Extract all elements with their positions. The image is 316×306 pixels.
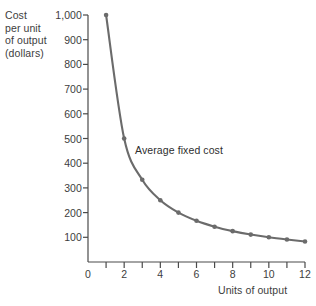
y-tick-label: 700 [46, 83, 82, 95]
data-point-markers [104, 13, 308, 244]
x-tick-label: 4 [147, 268, 173, 280]
y-tick-label: 500 [46, 133, 82, 145]
x-tick-label: 0 [75, 268, 101, 280]
x-tick-label: 2 [111, 268, 137, 280]
x-tick-label: 12 [292, 268, 316, 280]
y-axis-ticks [83, 15, 88, 237]
y-tick-label: 100 [46, 231, 82, 243]
y-tick-label: 800 [46, 58, 82, 70]
y-tick-label: 900 [46, 34, 82, 46]
x-tick-label: 10 [256, 268, 282, 280]
y-tick-label: 300 [46, 182, 82, 194]
y-tick-label: 200 [46, 207, 82, 219]
axis-lines [88, 15, 305, 262]
y-axis-tick-labels: 1002003004005006007008009001,000 [44, 0, 82, 306]
x-tick-label: 6 [184, 268, 210, 280]
y-tick-label: 600 [46, 108, 82, 120]
average-fixed-cost-curve [106, 15, 305, 242]
chart-figure: Cost per unit of output (dollars) 100200… [0, 0, 316, 306]
x-axis-title: Units of output [218, 284, 287, 296]
series-annotation-label: Average fixed cost [135, 144, 223, 156]
y-tick-label: 1,000 [46, 9, 82, 21]
y-tick-label: 400 [46, 157, 82, 169]
x-tick-label: 8 [220, 268, 246, 280]
